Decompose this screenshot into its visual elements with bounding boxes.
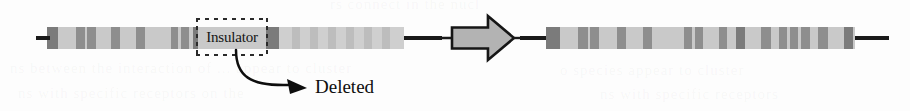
deleted-label: Deleted (315, 76, 374, 98)
deleted-callout-arrowhead-icon (287, 79, 307, 94)
deleted-callout-arrow-icon (236, 50, 288, 85)
chromosome-deletion-figure: rs connect in the nucl ns between the in… (0, 0, 910, 111)
transition-arrow-icon (452, 16, 514, 60)
diagram-overlay (0, 0, 910, 111)
